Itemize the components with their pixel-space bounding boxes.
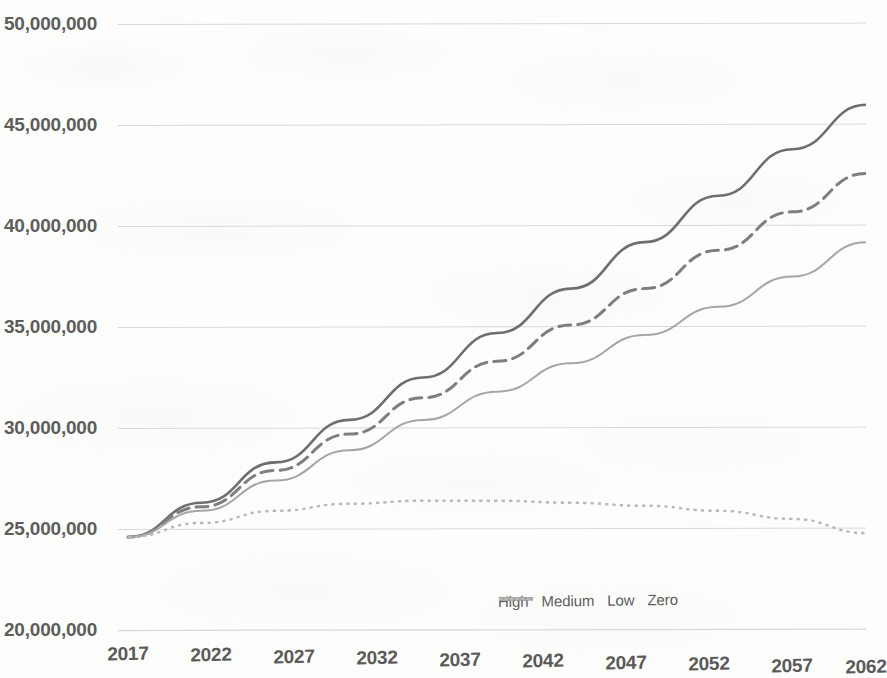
y-axis-tick-label: 50,000,000 <box>4 13 97 35</box>
legend-label: Zero <box>647 591 678 608</box>
gridline <box>118 225 866 226</box>
y-axis-tick-label: 35,000,000 <box>4 316 97 338</box>
legend-label: Medium <box>541 592 594 610</box>
y-axis-tick-label: 45,000,000 <box>4 114 97 136</box>
y-axis-tick-label: 25,000,000 <box>4 518 97 540</box>
legend-item-low: Low <box>607 591 634 608</box>
x-axis-tick-label: 2022 <box>190 644 232 667</box>
gridline <box>118 326 866 327</box>
x-axis-tick-label: 2052 <box>688 653 730 676</box>
gridline <box>118 629 866 630</box>
gridline <box>118 124 866 125</box>
x-axis-tick-label: 2047 <box>605 651 647 674</box>
chart-legend: HighMediumLowZero <box>498 591 678 610</box>
x-axis-tick-label: 2062 <box>845 656 887 678</box>
x-axis-tick-label: 2057 <box>771 654 813 677</box>
y-axis-tick-label: 30,000,000 <box>4 417 97 439</box>
legend-item-zero: Zero <box>647 591 678 608</box>
x-axis-tick-label: 2032 <box>356 647 398 670</box>
x-axis-tick-label: 2037 <box>439 648 481 671</box>
x-axis-tick-label: 2027 <box>273 645 315 668</box>
gridline <box>118 23 866 24</box>
series-line-high <box>128 105 866 537</box>
series-line-low <box>128 242 866 537</box>
legend-label: Low <box>607 591 634 608</box>
x-axis-tick-label: 2042 <box>522 650 564 673</box>
x-axis-tick-label: 2017 <box>107 643 149 666</box>
legend-swatch-zero-icon <box>498 593 534 605</box>
y-axis-tick-label: 40,000,000 <box>4 215 97 237</box>
series-line-zero <box>128 501 866 537</box>
gridline <box>118 528 866 529</box>
legend-item-medium: Medium <box>541 592 594 610</box>
y-axis-tick-label: 20,000,000 <box>4 619 97 641</box>
gridline <box>118 427 866 428</box>
